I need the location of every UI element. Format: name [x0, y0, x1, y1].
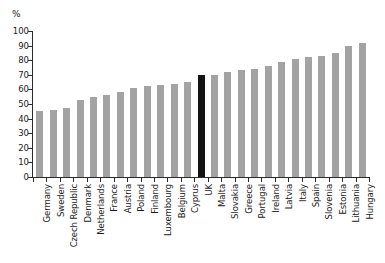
bar-austria	[117, 92, 124, 177]
x-axis-label-finland: Finland	[151, 184, 160, 214]
bar-italy	[292, 59, 299, 177]
x-axis-label-estonia: Estonia	[339, 184, 348, 215]
y-axis-tick-mark	[28, 75, 32, 76]
x-axis-line	[32, 177, 370, 178]
y-axis-tick-label: 100	[13, 27, 29, 36]
x-axis-tick-mark	[369, 178, 370, 182]
bar-france	[103, 95, 110, 177]
x-axis-tick-mark	[235, 178, 236, 182]
y-axis-tick-mark	[28, 133, 32, 134]
x-axis-label-italy: Italy	[299, 184, 308, 202]
y-axis-tick-mark	[28, 89, 32, 90]
x-axis-label-luxembourg: Luxembourg	[164, 184, 173, 236]
x-axis-tick-mark	[315, 178, 316, 182]
y-axis-tick-mark	[28, 46, 32, 47]
x-axis-tick-mark	[356, 178, 357, 182]
x-axis-tick-mark	[302, 178, 303, 182]
bar-czech-republic	[63, 108, 70, 177]
x-axis-tick-mark	[329, 178, 330, 182]
x-axis-tick-mark	[33, 178, 34, 182]
x-axis-label-denmark: Denmark	[84, 184, 93, 222]
x-axis-label-latvia: Latvia	[285, 184, 294, 209]
x-axis-tick-mark	[248, 178, 249, 182]
bar-cyprus	[184, 82, 191, 177]
x-axis-tick-mark	[194, 178, 195, 182]
x-axis-tick-mark	[60, 178, 61, 182]
bar-uk	[198, 75, 205, 177]
x-axis-label-portugal: Portugal	[258, 184, 267, 218]
y-axis-tick-mark	[28, 119, 32, 120]
x-axis-label-poland: Poland	[137, 184, 146, 212]
bar-estonia	[332, 53, 339, 177]
x-axis-tick-mark	[100, 178, 101, 182]
bar-netherlands	[90, 97, 97, 177]
x-axis-label-lithuania: Lithuania	[352, 184, 361, 222]
x-axis-tick-mark	[342, 178, 343, 182]
x-axis-tick-mark	[73, 178, 74, 182]
y-axis-tick-mark	[28, 162, 32, 163]
x-axis-tick-mark	[46, 178, 47, 182]
x-axis-label-spain: Spain	[312, 184, 321, 207]
bar-slovenia	[318, 56, 325, 177]
x-axis-tick-mark	[114, 178, 115, 182]
bar-chart: % 0102030405060708090100 GermanySwedenCz…	[0, 0, 385, 263]
x-axis-tick-mark	[275, 178, 276, 182]
y-axis-tick-mark	[28, 148, 32, 149]
bar-germany	[36, 111, 43, 177]
x-axis-tick-mark	[261, 178, 262, 182]
x-axis-label-germany: Germany	[43, 184, 52, 222]
bar-malta	[211, 75, 218, 177]
x-axis-label-czech-republic: Czech Republic	[70, 184, 79, 247]
bar-belgium	[171, 84, 178, 177]
x-axis-tick-mark	[288, 178, 289, 182]
x-axis-tick-mark	[181, 178, 182, 182]
bar-slovakia	[224, 72, 231, 177]
x-axis-label-hungary: Hungary	[366, 184, 375, 220]
bar-luxembourg	[157, 85, 164, 177]
bar-spain	[305, 57, 312, 177]
x-axis-label-belgium: Belgium	[178, 184, 187, 218]
bar-denmark	[77, 100, 84, 177]
x-axis-tick-mark	[221, 178, 222, 182]
bar-finland	[144, 86, 151, 177]
x-axis-tick-mark	[141, 178, 142, 182]
bar-poland	[130, 88, 137, 177]
plot-area	[33, 31, 369, 177]
y-axis-tick-mark	[28, 31, 32, 32]
bar-portugal	[251, 69, 258, 177]
x-axis-label-uk: UK	[205, 184, 214, 196]
y-axis-tick-mark	[28, 104, 32, 105]
y-axis-tick-labels: 0102030405060708090100	[0, 0, 29, 263]
x-axis-tick-mark	[87, 178, 88, 182]
bar-latvia	[278, 62, 285, 177]
x-axis-tick-mark	[208, 178, 209, 182]
y-axis-tick-mark	[28, 177, 32, 178]
x-axis-label-malta: Malta	[218, 184, 227, 207]
x-axis-tick-mark	[167, 178, 168, 182]
x-axis-label-sweden: Sweden	[57, 184, 66, 217]
y-axis-tick-mark	[28, 60, 32, 61]
x-axis-tick-mark	[154, 178, 155, 182]
bar-ireland	[265, 66, 272, 177]
bar-lithuania	[345, 46, 352, 177]
x-axis-label-cyprus: Cyprus	[191, 184, 200, 213]
x-axis-label-ireland: Ireland	[272, 184, 281, 213]
bar-sweden	[50, 110, 57, 177]
x-axis-label-austria: Austria	[124, 184, 133, 213]
bar-hungary	[359, 43, 366, 177]
bar-greece	[238, 70, 245, 177]
x-axis-label-netherlands: Netherlands	[97, 184, 106, 235]
x-axis-tick-mark	[127, 178, 128, 182]
x-axis-label-slovenia: Slovenia	[325, 184, 334, 219]
x-axis-label-france: France	[110, 184, 119, 212]
x-axis-label-slovakia: Slovakia	[231, 184, 240, 219]
x-axis-label-greece: Greece	[245, 184, 254, 214]
